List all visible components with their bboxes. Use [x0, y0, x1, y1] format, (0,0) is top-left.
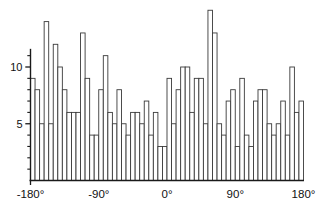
histogram-bar	[85, 78, 90, 180]
histogram-bar	[76, 112, 81, 180]
histogram-bar	[140, 124, 145, 181]
histogram-bar	[240, 78, 245, 180]
histogram-bar	[199, 78, 204, 180]
histogram-bar	[258, 90, 263, 181]
histogram-bar	[222, 135, 227, 180]
histogram-bar	[253, 101, 258, 180]
histogram-bar	[158, 146, 163, 180]
histogram-plot: 510 -180°-90°0°90°180°	[0, 0, 321, 214]
histogram-bar	[172, 124, 177, 181]
histogram-bar	[62, 90, 67, 181]
histogram-bar	[299, 101, 304, 180]
histogram-bar	[213, 33, 218, 181]
x-axis-tick-label: 180°	[292, 188, 316, 200]
y-axis-tick-label: 10	[10, 61, 22, 73]
histogram-bar	[281, 101, 286, 180]
histogram-bar	[185, 67, 190, 181]
histogram-bar	[263, 90, 268, 181]
histogram-bar	[181, 67, 186, 181]
histogram-bar	[122, 124, 127, 181]
histogram-bar	[235, 146, 240, 180]
histogram-bar	[203, 124, 208, 181]
histogram-bar	[285, 135, 290, 180]
histogram-bar	[58, 67, 63, 181]
histogram-bar	[217, 124, 222, 181]
histogram-bar	[135, 112, 140, 180]
histogram-bar	[103, 56, 108, 181]
histogram-bar	[126, 135, 131, 180]
histogram-bar	[144, 101, 149, 180]
histogram-bar	[90, 135, 95, 180]
histogram-bar	[149, 135, 154, 180]
histogram-bar	[44, 22, 49, 181]
histogram-bar	[153, 112, 158, 180]
histogram-bar	[167, 78, 172, 180]
histogram-bar	[117, 90, 122, 181]
histogram-bar	[131, 112, 136, 180]
histogram-bar	[99, 90, 104, 181]
histogram-bar	[290, 67, 295, 181]
histogram-bar	[294, 112, 299, 180]
histogram-bar	[208, 10, 213, 180]
histogram-bar	[231, 90, 236, 181]
histogram-bar	[267, 124, 272, 181]
histogram-bar	[194, 78, 199, 180]
histogram-bar	[276, 124, 281, 181]
histogram-bar	[112, 124, 117, 181]
histogram-bar	[35, 90, 40, 181]
histogram-bar	[81, 33, 86, 181]
histogram-bar	[190, 112, 195, 180]
histogram-bar	[67, 112, 72, 180]
histogram-figure: 510 -180°-90°0°90°180°	[0, 0, 321, 214]
histogram-bar	[249, 146, 254, 180]
histogram-bar	[71, 112, 76, 180]
histogram-bar	[53, 44, 58, 180]
histogram-bar	[40, 124, 45, 181]
histogram-bar	[226, 101, 231, 180]
histogram-bar	[176, 90, 181, 181]
histogram-bar	[162, 146, 167, 180]
histogram-bar	[49, 124, 54, 181]
x-axis-tick-label: 90°	[227, 188, 244, 200]
histogram-bar	[94, 135, 99, 180]
y-axis-tick-label: 5	[16, 118, 22, 130]
histogram-bar	[244, 135, 249, 180]
x-axis-tick-label: -180°	[17, 188, 45, 200]
x-axis-tick-label: -90°	[88, 188, 109, 200]
histogram-bar	[272, 135, 277, 180]
x-axis-tick-label: 0°	[162, 188, 173, 200]
histogram-bar	[108, 112, 113, 180]
